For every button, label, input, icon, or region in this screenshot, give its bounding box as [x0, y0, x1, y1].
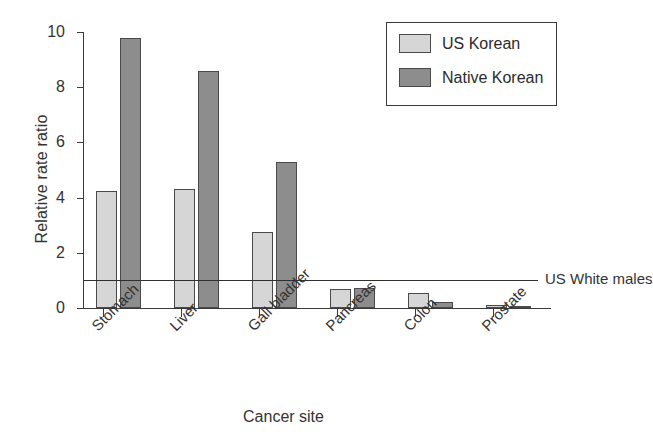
legend-label-us-korean: US Korean	[442, 35, 520, 53]
y-tick-label-2: 2	[56, 243, 65, 261]
legend-box: US Korean Native Korean	[386, 22, 557, 106]
bar-stomach-native-korean	[120, 38, 141, 308]
legend-swatch-native-korean	[399, 68, 431, 87]
y-tick-4: 4	[77, 198, 84, 199]
y-tick-8: 8	[77, 87, 84, 88]
y-tick-6: 6	[77, 142, 84, 143]
x-axis-title: Cancer site	[0, 408, 567, 426]
y-tick-label-8: 8	[56, 78, 65, 96]
legend-label-native-korean: Native Korean	[442, 69, 543, 87]
y-tick-label-10: 10	[47, 23, 65, 41]
bar-liver-us-korean	[174, 189, 195, 308]
bar-stomach-us-korean	[96, 191, 117, 308]
legend-item-native-korean: Native Korean	[399, 68, 543, 87]
y-axis-title: Relative rate ratio	[33, 59, 51, 299]
x-axis-line	[83, 308, 551, 309]
y-tick-0: 0	[77, 308, 84, 309]
y-tick-label-4: 4	[56, 188, 65, 206]
reference-line-label: US White males	[545, 270, 653, 287]
reference-line	[83, 280, 538, 281]
y-tick-label-6: 6	[56, 133, 65, 151]
legend-swatch-us-korean	[399, 34, 431, 53]
bar-liver-native-korean	[198, 71, 219, 308]
y-axis-line	[83, 32, 84, 309]
y-tick-label-0: 0	[56, 299, 65, 317]
legend-item-us-korean: US Korean	[399, 34, 520, 53]
y-tick-2: 2	[77, 253, 84, 254]
y-tick-10: 10	[77, 32, 84, 33]
